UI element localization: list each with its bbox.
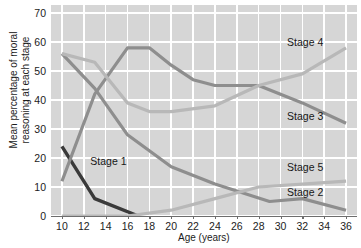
- y-tick-label-10: 10: [0, 182, 46, 193]
- tick-mark-20: [171, 216, 172, 219]
- tick-mark-22: [193, 216, 194, 219]
- tick-mark-36: [346, 216, 347, 219]
- y-axis-title-line1: Mean percentage of moral: [8, 10, 20, 170]
- series-label-stage-3: Stage 3: [287, 111, 323, 122]
- tick-mark-24: [215, 216, 216, 219]
- x-tick-label-34: 34: [312, 221, 336, 232]
- x-tick-label-26: 26: [225, 221, 249, 232]
- tick-mark-34: [324, 216, 325, 219]
- tick-mark-12: [84, 216, 85, 219]
- x-axis-title: Age (years): [178, 232, 230, 243]
- tick-mark-30: [281, 216, 282, 219]
- y-axis-title-line2: reasoning at each stage: [20, 10, 32, 170]
- tick-mark-10: [62, 216, 63, 219]
- x-tick-label-22: 22: [181, 221, 205, 232]
- tick-mark-16: [128, 216, 129, 219]
- x-tick-label-36: 36: [334, 221, 358, 232]
- x-tick-label-14: 14: [94, 221, 118, 232]
- moral-reasoning-line-chart: 010203040506070 101214161820222426283032…: [0, 0, 361, 248]
- tick-mark-26: [237, 216, 238, 219]
- tick-mark-28: [259, 216, 260, 219]
- x-tick-label-12: 12: [72, 221, 96, 232]
- tick-mark-14: [106, 216, 107, 219]
- y-tick-label-0: 0: [0, 211, 46, 222]
- x-tick-label-18: 18: [137, 221, 161, 232]
- x-tick-label-20: 20: [159, 221, 183, 232]
- x-tick-label-32: 32: [290, 221, 314, 232]
- x-tick-label-10: 10: [50, 221, 74, 232]
- x-tick-label-24: 24: [203, 221, 227, 232]
- series-label-stage-5: Stage 5: [287, 162, 323, 173]
- tick-mark-18: [149, 216, 150, 219]
- x-tick-label-30: 30: [269, 221, 293, 232]
- x-tick-label-28: 28: [247, 221, 271, 232]
- tick-mark-32: [302, 216, 303, 219]
- series-label-stage-1: Stage 1: [90, 156, 126, 167]
- series-label-stage-4: Stage 4: [287, 37, 323, 48]
- x-tick-label-16: 16: [116, 221, 140, 232]
- y-axis-title: Mean percentage of moral reasoning at ea…: [8, 10, 32, 170]
- x-axis-line: [51, 216, 357, 217]
- series-label-stage-2: Stage 2: [287, 187, 323, 198]
